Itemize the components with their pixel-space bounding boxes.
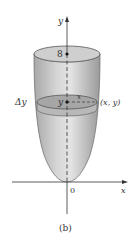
x-axis-arrow-icon	[122, 180, 128, 184]
y-axis-arrow-icon	[65, 16, 69, 22]
origin-label: 0	[70, 186, 75, 195]
solid-of-revolution-diagram: y 8 y x (x, y) Δy 0 x (b)	[0, 0, 134, 243]
figure-caption: (b)	[59, 223, 72, 233]
delta-y-label: Δy	[14, 97, 27, 107]
paraboloid-body	[34, 54, 100, 182]
radius-label: x	[77, 93, 81, 101]
x-axis-label: x	[121, 186, 126, 195]
point-y	[65, 100, 68, 103]
y-axis-label: y	[57, 16, 64, 26]
top-value-label: 8	[57, 49, 63, 59]
point-8	[65, 52, 68, 55]
slice-y-label: y	[57, 97, 64, 107]
point-label: (x, y)	[100, 98, 120, 107]
